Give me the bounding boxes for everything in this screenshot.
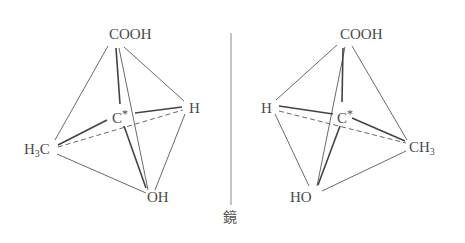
right-top-group: COOH (340, 27, 383, 42)
left-methyl-c: C (40, 141, 50, 157)
left-left-group: H3C (24, 142, 50, 159)
right-left-group: H (261, 101, 272, 116)
right-chiral-mark: * (347, 107, 353, 121)
right-methyl-sub: 3 (430, 146, 435, 157)
right-chiral-center: C* (337, 108, 353, 126)
left-chiral-center: C* (112, 108, 128, 126)
right-methyl-ch: CH (409, 139, 430, 155)
left-bottom-group: OH (147, 190, 169, 205)
right-right-group: CH3 (409, 140, 435, 157)
left-center-atom: C (112, 110, 122, 126)
left-top-group: COOH (109, 27, 152, 42)
right-center-atom: C (337, 110, 347, 126)
left-chiral-mark: * (122, 107, 128, 121)
left-methyl-h: H (24, 141, 35, 157)
left-right-group: H (189, 101, 200, 116)
enantiomer-diagram: COOH C* H H3C OH 鏡 COOH C* H CH3 HO (0, 0, 465, 243)
mirror-label: 鏡 (223, 210, 237, 224)
right-bottom-group: HO (290, 190, 312, 205)
diagram-lines (0, 0, 465, 243)
